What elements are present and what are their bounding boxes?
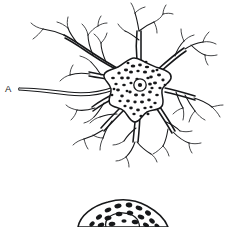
axon-label: A bbox=[5, 83, 12, 94]
neuron-illustration: A bbox=[0, 0, 227, 227]
neuron-figure: A bbox=[0, 0, 227, 227]
nucleus bbox=[134, 79, 146, 91]
nucleolus bbox=[138, 83, 142, 87]
